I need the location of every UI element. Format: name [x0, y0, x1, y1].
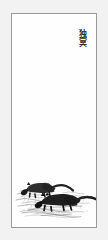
inscription-glyph-2: 冥: [79, 39, 87, 48]
upper-animal-head: [21, 189, 28, 195]
scroll-frame: 独 冥: [11, 13, 97, 228]
lower-right-animal: [35, 193, 97, 212]
painting-svg: [13, 160, 97, 220]
painting-scene: [13, 160, 97, 220]
artwork-canvas: 独 冥: [0, 0, 108, 240]
upper-animal-ear: [27, 182, 31, 185]
inscription: 独 冥: [77, 31, 88, 49]
upper-animal-tail: [53, 185, 73, 190]
